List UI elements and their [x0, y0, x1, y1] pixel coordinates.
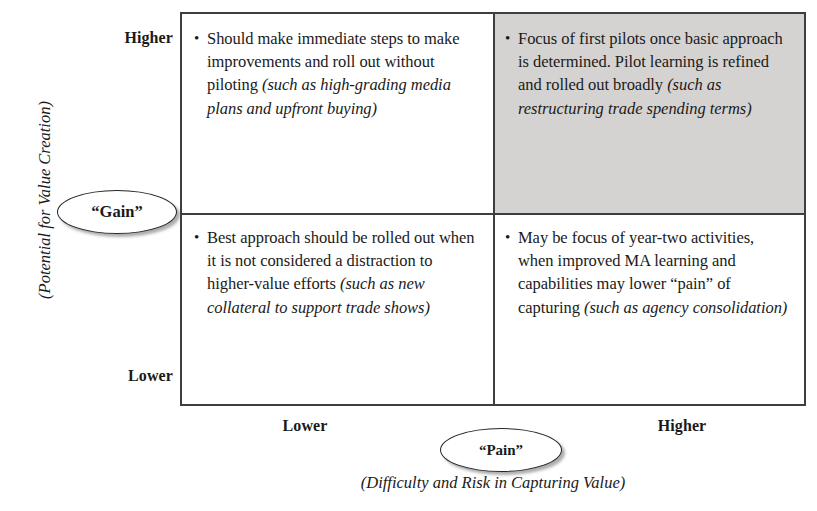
quadrant-bottom-left: • Best approach should be rolled out whe… [182, 213, 493, 404]
bullet-point-icon: • [505, 27, 518, 50]
quadrant-top-right: • Focus of first pilots once basic appro… [493, 14, 804, 213]
two-by-two-matrix: • Should make immediate steps to make im… [180, 12, 806, 406]
matrix-horizontal-divider [182, 213, 804, 215]
quadrant-top-left: • Should make immediate steps to make im… [182, 14, 493, 213]
y-axis-caption: (Potential for Value Creation) [35, 5, 55, 395]
bullet-item: • Focus of first pilots once basic appro… [505, 27, 790, 120]
bullet-point-icon: • [194, 226, 207, 249]
bullet-point-icon: • [505, 226, 518, 249]
pain-callout-ellipse: “Pain” [440, 428, 562, 472]
bullet-text: Best approach should be rolled out when … [207, 226, 479, 319]
bullet-text-plain: Focus of first pilots once basic approac… [518, 29, 783, 94]
x-axis-low-label: Lower [252, 417, 358, 435]
bullet-item: • Should make immediate steps to make im… [194, 27, 479, 120]
diagram-canvas: Higher Lower (Potential for Value Creati… [0, 0, 817, 511]
bullet-item: • May be focus of year-two activities, w… [505, 226, 790, 319]
y-axis-high-label: Higher [0, 29, 173, 47]
x-axis-caption: (Difficulty and Risk in Capturing Value) [180, 473, 806, 493]
quadrant-bottom-right: • May be focus of year-two activities, w… [493, 213, 804, 404]
bullet-text: May be focus of year-two activities, whe… [518, 226, 790, 319]
y-axis-low-label: Lower [0, 367, 173, 385]
gain-callout-ellipse: “Gain” [57, 190, 177, 234]
matrix-vertical-divider [493, 14, 495, 404]
bullet-point-icon: • [194, 27, 207, 50]
bullet-text-italic: (such as agency consolidation) [584, 298, 787, 317]
pain-callout-label: “Pain” [479, 442, 523, 459]
gain-callout-label: “Gain” [91, 202, 142, 222]
bullet-item: • Best approach should be rolled out whe… [194, 226, 479, 319]
bullet-text: Focus of first pilots once basic approac… [518, 27, 790, 120]
x-axis-high-label: Higher [628, 417, 736, 435]
bullet-text: Should make immediate steps to make impr… [207, 27, 479, 120]
